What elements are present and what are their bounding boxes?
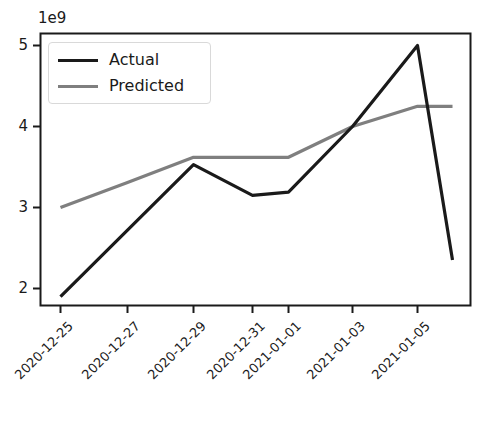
chart-legend: Actual Predicted xyxy=(48,42,211,104)
y-tick-label-2: 2 xyxy=(8,281,28,296)
y-axis-offset-text: 1e9 xyxy=(38,11,66,26)
y-tick-label-3: 3 xyxy=(8,200,28,215)
y-tick-label-5: 5 xyxy=(8,38,28,53)
legend-swatch-actual xyxy=(58,59,98,62)
legend-entry-predicted: Predicted xyxy=(58,73,184,99)
legend-label-predicted: Predicted xyxy=(109,78,184,94)
legend-label-actual: Actual xyxy=(109,52,159,68)
y-tick-marks xyxy=(33,46,40,289)
y-tick-label-4: 4 xyxy=(8,119,28,134)
series-line-predicted xyxy=(61,106,453,207)
legend-entry-actual: Actual xyxy=(58,47,159,73)
legend-swatch-predicted xyxy=(58,85,98,88)
chart-figure: 1e9 5 4 3 2 2020-12-25 2020-12-27 2020-1… xyxy=(0,0,487,427)
x-tick-marks xyxy=(61,306,418,313)
figure-caption-cutoff xyxy=(8,414,308,423)
